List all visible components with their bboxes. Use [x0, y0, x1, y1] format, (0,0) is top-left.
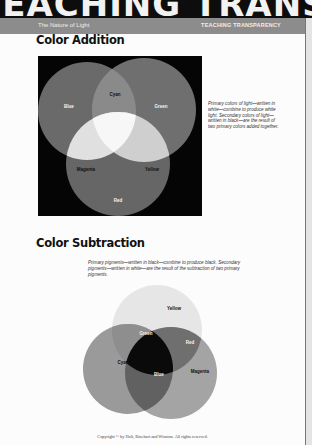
label-sub-magenta: Magenta — [191, 369, 209, 374]
document-page: The Nature of Light TEACHING TRANSPARENC… — [0, 18, 305, 445]
top-banner: TEACHING TRANSPARENCIES — [0, 0, 312, 18]
label-sub-green: Green — [139, 331, 152, 336]
page-edge — [305, 18, 312, 445]
label-sub-red: Red — [186, 340, 195, 345]
banner-title: TEACHING TRANSPARENCIES — [0, 0, 312, 18]
color-subtraction-diagram: Yellow Green Red Cyan Blue Magenta — [0, 18, 305, 445]
copyright-notice: Copyright © by Holt, Rinehart and Winsto… — [0, 434, 305, 439]
label-sub-cyan: Cyan — [117, 360, 128, 365]
label-sub-blue: Blue — [154, 372, 164, 377]
subtraction-venn-icon — [0, 18, 305, 445]
label-sub-yellow: Yellow — [167, 306, 181, 311]
